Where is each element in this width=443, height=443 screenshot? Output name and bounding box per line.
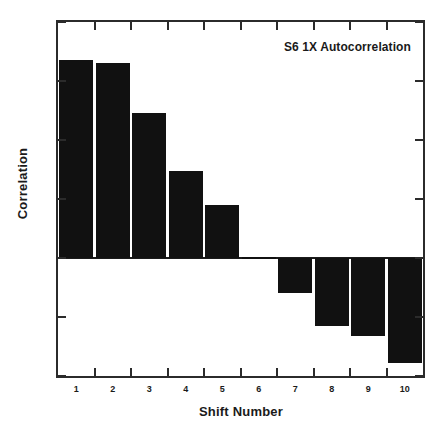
- bar-8: [315, 258, 349, 326]
- x-tick-mark-top: [276, 22, 278, 30]
- x-tick-label: 9: [353, 384, 383, 394]
- bar-6: [242, 257, 276, 259]
- y-tick-mark-right: [415, 257, 423, 259]
- y-tick-mark: [58, 21, 66, 23]
- x-tick-mark-top: [130, 22, 132, 30]
- y-tick-mark-right: [415, 21, 423, 23]
- x-tick-mark-top: [167, 22, 169, 30]
- x-tick-label: 4: [171, 384, 201, 394]
- y-tick-mark-right: [415, 198, 423, 200]
- x-tick-mark: [349, 368, 351, 376]
- x-tick-mark: [276, 368, 278, 376]
- x-tick-mark-top: [386, 22, 388, 30]
- plot-area: S6 1X Autocorrelation 0.80.60.40.20-0.2-…: [56, 20, 425, 378]
- bar-9: [351, 258, 385, 336]
- y-tick-mark: [58, 375, 66, 377]
- y-tick-mark: [58, 198, 66, 200]
- x-tick-label: 10: [390, 384, 420, 394]
- x-tick-mark-top: [203, 22, 205, 30]
- figure-canvas: Correlation S6 1X Autocorrelation 0.80.6…: [0, 0, 443, 443]
- y-tick-mark-right: [415, 139, 423, 141]
- x-tick-mark-top: [240, 22, 242, 30]
- y-tick-mark: [58, 257, 66, 259]
- y-tick-mark-right: [415, 316, 423, 318]
- x-tick-label: 8: [317, 384, 347, 394]
- x-tick-label: 2: [98, 384, 128, 394]
- y-tick-mark: [58, 139, 66, 141]
- y-tick-mark: [58, 316, 66, 318]
- x-axis-title: Shift Number: [56, 404, 426, 419]
- bar-2: [96, 63, 130, 258]
- x-tick-mark: [167, 368, 169, 376]
- y-tick-mark: [58, 80, 66, 82]
- bar-4: [169, 171, 203, 258]
- x-tick-mark: [386, 368, 388, 376]
- x-tick-label: 1: [61, 384, 91, 394]
- x-tick-mark: [313, 368, 315, 376]
- x-tick-mark: [203, 368, 205, 376]
- plot-inner: [58, 22, 423, 376]
- x-tick-mark: [94, 368, 96, 376]
- bar-5: [205, 205, 239, 258]
- bar-10: [388, 258, 422, 363]
- y-axis-title: Correlation: [15, 124, 30, 244]
- y-tick-mark-right: [415, 375, 423, 377]
- bar-7: [278, 258, 312, 293]
- x-tick-label: 5: [207, 384, 237, 394]
- x-tick-label: 7: [280, 384, 310, 394]
- x-tick-mark-top: [313, 22, 315, 30]
- x-tick-label: 6: [244, 384, 274, 394]
- x-tick-mark-top: [94, 22, 96, 30]
- y-tick-mark-right: [415, 80, 423, 82]
- bar-3: [132, 113, 166, 258]
- x-tick-mark: [240, 368, 242, 376]
- x-tick-mark: [130, 368, 132, 376]
- bar-1: [59, 60, 93, 258]
- x-tick-mark-top: [349, 22, 351, 30]
- x-tick-label: 3: [134, 384, 164, 394]
